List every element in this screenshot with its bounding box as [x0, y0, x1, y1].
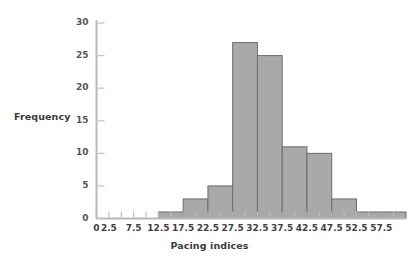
histogram-bar: [257, 56, 282, 219]
y-tick-label: 20: [63, 82, 89, 92]
y-tick-label: 15: [63, 115, 89, 125]
bars-group: [158, 43, 406, 219]
y-tick-label: 5: [63, 180, 89, 190]
y-tick-label: 10: [63, 147, 89, 157]
histogram-bar: [233, 43, 258, 219]
histogram-bar: [307, 153, 332, 218]
y-ticks-group: [98, 23, 105, 219]
x-tick-label: 57.5: [367, 223, 395, 233]
y-tick-label: 0: [63, 213, 89, 223]
y-tick-label: 30: [63, 17, 89, 27]
histogram-bar: [282, 147, 307, 219]
histogram-chart: Frequency Pacing indices 051015202530 02…: [0, 0, 419, 260]
y-tick-label: 25: [63, 50, 89, 60]
